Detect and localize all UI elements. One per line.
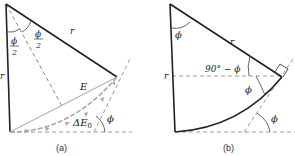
radius-left-label: r <box>0 71 5 81</box>
chord-e-label: E <box>79 81 88 92</box>
half-angle-left-num: ϕ <box>11 36 17 46</box>
panel-b: ϕ r r 90° − ϕ ϕ ϕ (b) <box>164 4 295 153</box>
diagram-canvas: ϕ 2 ϕ 2 r r E ΔE0 ϕ (a) ϕ r r <box>0 0 295 156</box>
apex-angle-label: ϕ <box>175 29 182 40</box>
caption-a: (a) <box>56 143 67 153</box>
half-angle-right-num: ϕ <box>35 29 41 39</box>
radius-left <box>170 4 175 132</box>
delta-e0-label: ΔE0 <box>72 117 92 130</box>
complement-angle-arc <box>248 56 250 76</box>
apex-angle-arc-left <box>7 29 20 32</box>
arc-arrowheads <box>25 81 115 133</box>
inner-angle-label: ϕ <box>245 84 252 95</box>
outer-angle-label: ϕ <box>271 113 278 124</box>
half-angle-right-den: 2 <box>35 41 41 50</box>
panel-a: ϕ 2 ϕ 2 r r E ΔE0 ϕ (a) <box>0 4 132 153</box>
radius-top-label: r <box>230 37 235 47</box>
complement-angle-label: 90° − ϕ <box>205 64 240 74</box>
radius-top <box>6 4 117 77</box>
apex-angle-arc-right <box>22 21 31 32</box>
phi-angle-label: ϕ <box>107 113 114 124</box>
outer-angle-arc <box>257 113 270 132</box>
arc <box>175 77 282 132</box>
delta-e-subscript: 0 <box>88 122 92 130</box>
right-angle-marker <box>275 64 288 77</box>
chord-e <box>10 77 117 132</box>
radius-left-label: r <box>164 71 169 81</box>
apex-angle-arc <box>171 22 190 28</box>
inner-angle-arc <box>256 76 265 95</box>
tangent-dashed <box>244 59 293 132</box>
caption-b: (b) <box>223 143 234 153</box>
half-angle-left-den: 2 <box>11 48 17 57</box>
delta-e-text: ΔE <box>72 117 88 128</box>
radius-top-label: r <box>70 26 75 36</box>
radius-left <box>6 4 10 132</box>
